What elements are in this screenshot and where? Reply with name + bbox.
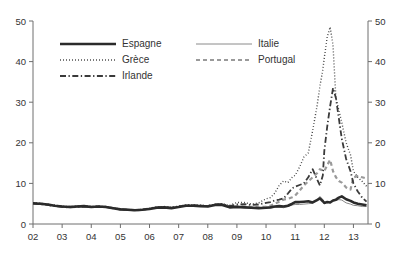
chart-legend: EspagneItalieGrècePortugalIrlande — [60, 38, 295, 81]
x-tick-label: 13 — [348, 231, 359, 242]
x-tick-label: 07 — [173, 231, 184, 242]
y2-tick-label: 10 — [375, 178, 386, 189]
x-tick-label: 06 — [144, 231, 155, 242]
legend-label-irlande: Irlande — [122, 70, 153, 81]
series-line-portugal — [33, 160, 367, 210]
y-tick-label: 30 — [15, 97, 26, 108]
y-tick-label: 10 — [15, 178, 26, 189]
series-line-italie — [33, 196, 367, 210]
chart-figure: 01020304050 01020304050 0203040506070809… — [0, 0, 399, 257]
legend-label-grce: Grèce — [122, 54, 150, 65]
series-line-espagne — [33, 196, 367, 210]
y-tick-label: 0 — [21, 219, 26, 230]
x-tick-label: 02 — [28, 231, 39, 242]
series-line-irlande — [33, 88, 367, 210]
x-tick-label: 11 — [290, 231, 300, 242]
y2-tick-label: 0 — [375, 219, 380, 230]
y-tick-label: 50 — [15, 16, 26, 27]
x-tick-label: 09 — [232, 231, 243, 242]
y-tick-label: 40 — [15, 56, 26, 67]
y2-tick-label: 20 — [375, 137, 386, 148]
x-tick-label: 04 — [86, 231, 97, 242]
y2-tick-label: 30 — [375, 97, 386, 108]
x-tick-label: 05 — [115, 231, 126, 242]
legend-label-portugal: Portugal — [258, 54, 295, 65]
legend-label-italie: Italie — [258, 38, 280, 49]
chart-svg: 01020304050 01020304050 0203040506070809… — [0, 0, 399, 257]
x-axis: 020304050607080910111213 — [28, 224, 368, 242]
x-tick-label: 10 — [261, 231, 272, 242]
right-y-axis: 01020304050 — [368, 16, 386, 230]
x-tick-label: 03 — [57, 231, 68, 242]
x-tick-label: 08 — [202, 231, 213, 242]
left-y-axis: 01020304050 — [15, 16, 33, 230]
y2-tick-label: 40 — [375, 56, 386, 67]
legend-label-espagne: Espagne — [122, 38, 162, 49]
series-line-grce — [33, 27, 367, 210]
x-tick-label: 12 — [319, 231, 330, 242]
y-tick-label: 20 — [15, 137, 26, 148]
y2-tick-label: 50 — [375, 16, 386, 27]
series-lines — [33, 27, 367, 210]
